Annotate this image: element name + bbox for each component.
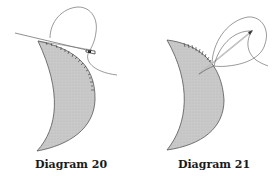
- diagram-21: [167, 17, 268, 150]
- caption-diagram-21: Diagram 21: [169, 158, 259, 171]
- thread-tail-21: [248, 31, 268, 66]
- needle-icon-21: [198, 30, 253, 75]
- diagrams-canvas: [0, 0, 280, 176]
- needle-icon-20: [86, 50, 95, 54]
- crescent-shape-21: [167, 40, 224, 150]
- crescent-shape-20: [37, 41, 95, 151]
- caption-diagram-20: Diagram 20: [26, 158, 116, 171]
- diagram-20: [15, 7, 117, 151]
